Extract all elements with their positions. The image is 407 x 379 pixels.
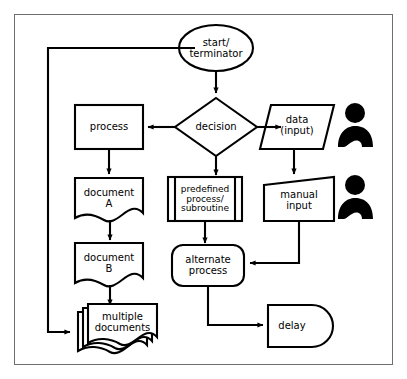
node-predefined-process: [168, 177, 242, 221]
person-icon-data-input: [338, 103, 373, 147]
edge-alternate-to-delay: [208, 286, 263, 325]
node-delay: [268, 305, 333, 347]
node-document-b: [75, 243, 143, 286]
node-manual-input: [264, 177, 334, 221]
flowchart-page: start/ terminator decision process data …: [0, 0, 407, 379]
edge-start-to-multidoc: [48, 48, 195, 332]
flowchart-canvas: [0, 0, 407, 379]
node-alternate-process: [172, 245, 244, 286]
node-decision: [175, 98, 257, 156]
person-icon-manual-input: [338, 175, 373, 219]
edge-manual-to-alternate: [250, 221, 299, 263]
node-document-a: [75, 178, 143, 221]
node-process: [75, 105, 143, 149]
